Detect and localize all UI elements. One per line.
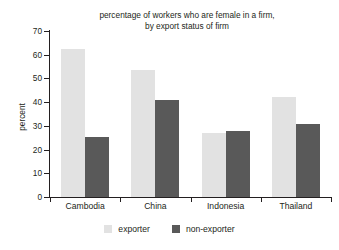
legend-label-non-exporter: non-exporter [186,224,235,234]
y-axis-tick-label: 50 [16,73,42,83]
y-axis-tick [44,78,49,79]
x-axis-label-indonesia: Indonesia [191,201,261,211]
y-axis-tick-label: 30 [16,121,42,131]
y-axis-tick [44,55,49,56]
chart-legend: exporter non-exporter [0,224,339,234]
chart-title: percentage of workers who are female in … [62,10,312,32]
x-axis-label-thailand: Thailand [261,201,331,211]
bar-cambodia-non-exporter [85,137,109,197]
y-axis-tick-label: 10 [16,168,42,178]
bar-cambodia-exporter [61,49,85,197]
bar-indonesia-exporter [202,133,226,198]
legend-item-exporter[interactable]: exporter [104,224,150,234]
bar-china-non-exporter [155,100,179,197]
x-axis-label-china: China [120,201,190,211]
x-axis-tick [331,198,332,202]
y-axis-tick-label: 60 [16,50,42,60]
y-axis-tick-label: 0 [16,192,42,202]
y-axis-tick [44,150,49,151]
chart-title-line-1: percentage of workers who are female in … [62,10,312,21]
legend-label-exporter: exporter [118,224,150,234]
legend-item-non-exporter[interactable]: non-exporter [172,224,235,234]
y-axis-tick [44,126,49,127]
y-axis-tick-label: 70 [16,26,42,36]
y-axis-tick-label: 20 [16,145,42,155]
y-axis-tick [44,31,49,32]
y-axis-label: percent [17,87,27,147]
legend-swatch-non-exporter [172,225,180,233]
bar-china-exporter [131,70,155,197]
bar-thailand-exporter [272,97,296,197]
y-axis-tick-label: 40 [16,97,42,107]
legend-swatch-exporter [104,225,112,233]
plot-area [50,31,331,197]
x-axis-label-cambodia: Cambodia [50,201,120,211]
bar-indonesia-non-exporter [226,131,250,197]
bar-thailand-non-exporter [296,124,320,197]
y-axis-tick [44,197,49,198]
y-axis-tick [44,173,49,174]
bar-chart: percentage of workers who are female in … [0,0,339,250]
y-axis-tick [44,102,49,103]
